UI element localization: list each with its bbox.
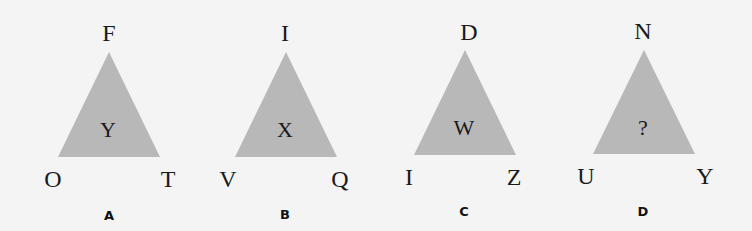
bottom-right-letter: Z [507,165,522,189]
center-letter: X [277,119,293,141]
top-letter: F [102,21,115,45]
top-letter: D [460,20,477,44]
bottom-left-letter: O [44,167,61,191]
figure-label: B [280,207,290,222]
bottom-right-letter: T [161,167,176,191]
bottom-right-letter: Y [696,164,713,188]
figure-label: C [459,204,469,219]
center-letter: Y [100,119,116,141]
triangle-shape [58,52,160,158]
top-letter: I [281,21,289,45]
bottom-left-letter: U [577,164,594,188]
top-letter: N [634,19,651,43]
figure-label: A [104,208,114,223]
triangle-shape [593,50,695,156]
bottom-left-letter: I [405,165,413,189]
bottom-left-letter: V [219,167,236,191]
bottom-right-letter: Q [331,167,348,191]
triangle-shape [414,50,516,156]
question-mark: ? [638,117,648,139]
triangle-shape [235,52,337,158]
figure-label: D [638,204,649,219]
center-letter: W [454,117,475,139]
letter-triangle-puzzle: F Y O T A I X V Q B D W I Z C N ? U Y D [0,0,752,231]
